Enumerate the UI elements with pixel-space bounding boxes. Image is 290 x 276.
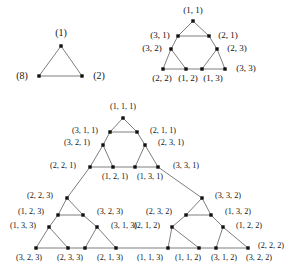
graph-edge xyxy=(172,215,186,227)
graph-vertex xyxy=(214,246,217,249)
graph-edge xyxy=(97,227,116,248)
graph-edge xyxy=(163,49,171,69)
hanoi-sierpinski-figure: (1)(8)(2)(1, 1)(3, 1)(2, 1)(3, 2)(2, 3)(… xyxy=(0,0,290,276)
graph-edge xyxy=(85,227,97,248)
graph-vertex xyxy=(156,165,159,168)
graph-vertex xyxy=(37,74,40,77)
graph-vertex xyxy=(184,67,187,70)
graph-edge xyxy=(58,198,67,215)
level-1-triangle xyxy=(37,44,83,77)
graph-edge xyxy=(193,21,209,36)
graph-edge xyxy=(36,227,49,248)
graph-edge xyxy=(171,36,178,49)
graph-vertex xyxy=(34,246,37,249)
graph-vertex xyxy=(184,213,187,216)
graph-edge xyxy=(110,118,123,132)
graph-edge xyxy=(168,227,172,248)
graph-vertex xyxy=(88,165,91,168)
graph-edge xyxy=(49,215,58,227)
graph-vertex xyxy=(133,165,136,168)
graph-vertex xyxy=(80,74,83,77)
graph-canvas xyxy=(0,0,290,276)
graph-vertex xyxy=(59,44,62,47)
graph-vertex xyxy=(246,246,249,249)
graph-vertex xyxy=(47,225,50,228)
graph-vertex xyxy=(161,67,164,70)
graph-edge xyxy=(67,167,90,198)
graph-edge xyxy=(209,36,217,49)
graph-edge xyxy=(217,49,225,69)
graph-edge xyxy=(216,227,223,248)
graph-vertex xyxy=(209,213,212,216)
graph-vertex xyxy=(200,196,203,199)
graph-vertex xyxy=(197,246,200,249)
graph-edge xyxy=(67,198,83,215)
graph-vertex xyxy=(101,143,104,146)
graph-edge xyxy=(49,227,68,248)
graph-vertex xyxy=(65,196,68,199)
graph-edge xyxy=(135,145,145,167)
graph-edge xyxy=(202,49,217,69)
graph-vertex xyxy=(170,225,173,228)
graph-vertex xyxy=(169,47,172,50)
graph-vertex xyxy=(223,67,226,70)
graph-edge xyxy=(137,132,145,145)
graph-edge xyxy=(158,167,202,198)
graph-edge xyxy=(145,145,158,167)
graph-edge xyxy=(202,198,211,215)
graph-edge xyxy=(123,118,137,132)
graph-vertex xyxy=(207,34,210,37)
graph-edge xyxy=(83,215,97,227)
graph-edge xyxy=(103,145,113,167)
graph-edge xyxy=(90,145,103,167)
graph-vertex xyxy=(191,19,194,22)
graph-vertex xyxy=(143,143,146,146)
graph-edge xyxy=(39,46,61,76)
graph-edge xyxy=(103,132,110,145)
graph-vertex xyxy=(221,225,224,228)
graph-vertex xyxy=(56,213,59,216)
graph-vertex xyxy=(215,47,218,50)
graph-vertex xyxy=(176,34,179,37)
graph-vertex xyxy=(166,246,169,249)
graph-edge xyxy=(172,227,199,248)
level-3-triangle xyxy=(34,116,249,249)
graph-edge xyxy=(223,227,248,248)
graph-vertex xyxy=(95,225,98,228)
graph-vertex xyxy=(121,116,124,119)
graph-vertex xyxy=(83,246,86,249)
graph-edge xyxy=(211,215,223,227)
graph-edge xyxy=(178,21,193,36)
graph-vertex xyxy=(135,130,138,133)
graph-edge xyxy=(186,198,202,215)
graph-edge xyxy=(61,46,82,76)
graph-vertex xyxy=(81,213,84,216)
graph-vertex xyxy=(108,130,111,133)
level-2-triangle xyxy=(161,19,226,70)
graph-vertex xyxy=(114,246,117,249)
graph-vertex xyxy=(111,165,114,168)
graph-vertex xyxy=(66,246,69,249)
graph-vertex xyxy=(200,67,203,70)
graph-edge xyxy=(171,49,186,69)
